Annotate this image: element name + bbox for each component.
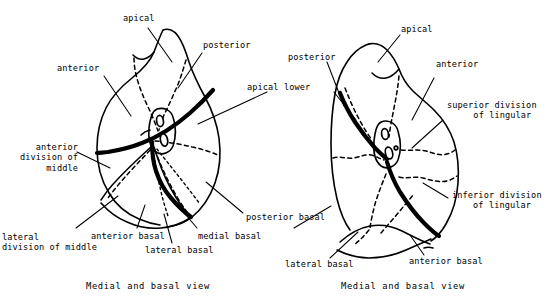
label-posterior-2: posterior: [288, 52, 335, 62]
right-lung-bronchus-lower: [159, 133, 169, 147]
leader-posterior-2: [327, 62, 344, 106]
label-anterior-basal: anterior basal: [91, 231, 165, 241]
leader-inf-lingular: [423, 183, 448, 198]
label-anterior-division-of-middle: anterior division of middle: [0, 142, 78, 173]
label-lateral-basal: lateral basal: [145, 245, 214, 255]
leader-medial-basal: [180, 208, 197, 228]
leader-ant-div-middle: [77, 152, 110, 168]
right-lung-apical-anterior-boundary: [134, 58, 158, 131]
lung-segments-figure: apical posterior anterior apical lower a…: [0, 0, 553, 308]
leader-anterior-basal: [137, 205, 145, 228]
right-lung-leader-lines: [76, 28, 267, 243]
leader-anterior-2: [412, 78, 434, 120]
leader-apical-2: [378, 35, 400, 62]
label-apical-lower: apical lower: [247, 82, 310, 92]
left-lung-oblique-fissure-upper: [340, 93, 387, 159]
label-superior-division-of-lingular: superior division of lingular: [447, 100, 537, 121]
caption-left-panel: Medial and basal view: [86, 281, 210, 291]
label-lateral-division-of-middle: lateral division of middle: [2, 232, 97, 253]
leader-sup-lingular: [412, 120, 443, 148]
label-inferior-division-of-lingular: inferior division of lingular: [452, 190, 542, 211]
right-lung-middle-lobe-division: [108, 150, 150, 198]
left-lung-bronchus-upper: [381, 128, 389, 140]
caption-right-panel: Medial and basal view: [341, 281, 465, 291]
label-posterior: posterior: [203, 40, 250, 50]
leader-lateral-basal-2: [330, 232, 358, 258]
left-lung-oblique-fissure-lower: [387, 162, 439, 236]
label-lateral-basal-2: lateral basal: [285, 259, 354, 269]
left-lung-lateral-basal-boundary: [370, 174, 386, 228]
label-apical: apical: [123, 13, 155, 23]
leader-lateral-basal: [164, 214, 172, 243]
left-lung-drawing: [331, 44, 458, 258]
label-anterior-basal-2: anterior basal: [409, 256, 483, 266]
leader-posterior-basal: [206, 182, 243, 213]
right-lung-medial-basal-boundary: [157, 149, 200, 204]
label-anterior: anterior: [57, 63, 99, 73]
leader-apical-lower-2: [334, 92, 356, 120]
left-lung-vessel-dot: [394, 146, 398, 150]
label-apical-2: apical: [401, 24, 433, 34]
left-lung-apex-notch: [372, 69, 399, 78]
label-anterior-2: anterior: [436, 59, 478, 69]
left-lung-basal-border: [340, 225, 430, 244]
left-lung-basal-medial-boundary: [354, 230, 369, 245]
label-medial-basal: medial basal: [198, 231, 261, 241]
left-lung-superior-lingular-boundary: [401, 149, 456, 155]
leader-lat-div-middle: [76, 196, 118, 228]
left-lung-inferior-lingular-boundary: [399, 176, 457, 182]
label-posterior-basal: posterior basal: [246, 212, 325, 222]
left-lung-cardiac-tick: [424, 247, 433, 248]
